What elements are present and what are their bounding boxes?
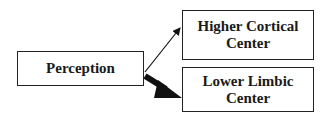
lower-limbic-center-box: Lower Limbic Center (182, 67, 314, 112)
lower-label-line1: Lower Limbic (203, 73, 294, 90)
higher-label-line1: Higher Cortical (198, 18, 299, 35)
higher-label-line2: Center (198, 35, 299, 52)
thick-arrow-to-lower (145, 76, 182, 98)
perception-box: Perception (17, 51, 144, 86)
diagram-canvas: Perception Higher Cortical Center Lower … (0, 0, 332, 121)
thin-arrow-to-higher (145, 28, 180, 72)
lower-label-line2: Center (203, 90, 294, 107)
higher-cortical-center-box: Higher Cortical Center (182, 10, 314, 60)
perception-label: Perception (46, 60, 115, 77)
